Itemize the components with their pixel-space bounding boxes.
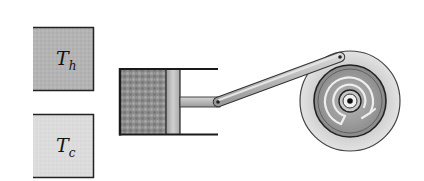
- axle-hub: [347, 98, 353, 104]
- hot-reservoir: Th: [33, 27, 94, 91]
- heat-engine-diagram: Th Tc: [0, 0, 424, 181]
- piston: [166, 70, 180, 134]
- crank-pin: [338, 55, 342, 59]
- gas-region: [120, 70, 166, 134]
- wrist-pin: [216, 100, 220, 104]
- cold-reservoir: Tc: [33, 114, 94, 178]
